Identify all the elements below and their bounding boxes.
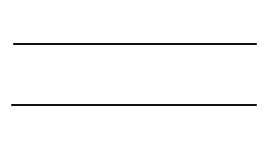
parallel-plates-diagram <box>0 0 266 146</box>
epsilon-2-label <box>113 116 115 135</box>
epsilon-1-label <box>113 8 115 27</box>
